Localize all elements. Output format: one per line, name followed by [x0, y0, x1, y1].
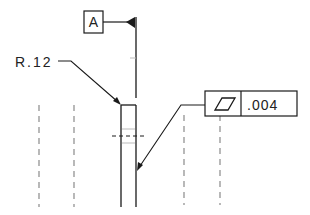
- datum-label: A: [89, 14, 99, 30]
- datum-symbol: A: [84, 11, 135, 33]
- radius-text: R.12: [15, 54, 53, 70]
- feature-control-frame: .004: [137, 91, 297, 171]
- fcf-leader: [140, 105, 205, 166]
- drawing-canvas: A R.12 .004: [0, 0, 310, 215]
- part-profile: [112, 105, 146, 207]
- datum-triangle-icon: [126, 17, 135, 28]
- tolerance-value: .004: [247, 97, 278, 113]
- hidden-lines: [39, 105, 220, 207]
- radius-leader: [58, 61, 118, 102]
- radius-callout: R.12: [15, 54, 121, 105]
